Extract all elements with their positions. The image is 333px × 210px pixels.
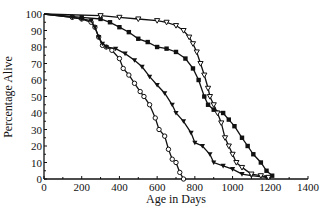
y-tick-label: 100 — [26, 8, 43, 20]
open-circle-marker — [157, 127, 161, 131]
open-circle-marker — [142, 94, 146, 98]
open-circle-marker — [147, 103, 151, 107]
open-triangle-marker — [211, 103, 216, 108]
series-filled-down-triangles — [44, 14, 269, 180]
open-circle-marker — [170, 157, 174, 161]
filled-square-marker — [227, 117, 231, 121]
series-open-circles — [44, 14, 186, 181]
open-triangle-marker — [219, 121, 224, 126]
open-circle-marker — [153, 116, 157, 120]
filled-square-marker — [191, 66, 195, 70]
open-circle-marker — [127, 73, 131, 77]
open-circle-marker — [174, 160, 178, 164]
x-tick-label: 1400 — [297, 181, 320, 193]
filled-square-marker — [240, 136, 244, 140]
filled-square-marker — [183, 56, 187, 60]
open-triangle-marker — [207, 95, 212, 100]
open-triangle-marker — [258, 174, 263, 179]
filled-square-marker — [259, 160, 263, 164]
series-filled-squares — [44, 14, 274, 178]
open-triangle-marker — [205, 86, 210, 91]
filled-square-marker — [264, 169, 268, 173]
filled-square-marker — [245, 144, 249, 148]
series-line — [44, 14, 272, 176]
open-triangle-marker — [198, 62, 203, 67]
open-circle-marker — [178, 170, 182, 174]
open-triangle-marker — [155, 19, 160, 24]
x-tick-label: 200 — [73, 181, 90, 193]
filled-square-marker — [232, 124, 236, 128]
open-triangle-marker — [164, 20, 169, 25]
open-triangle-marker — [136, 17, 141, 22]
filled-square-marker — [155, 45, 159, 49]
filled-square-marker — [136, 37, 140, 41]
open-circle-marker — [132, 81, 136, 85]
open-triangle-marker — [230, 152, 235, 157]
open-triangle-marker — [194, 50, 199, 55]
open-triangle-marker — [226, 144, 231, 149]
y-tick-label: 70 — [31, 58, 43, 70]
open-circle-marker — [117, 56, 121, 60]
filled-square-marker — [117, 25, 121, 29]
y-tick-label: 80 — [31, 41, 43, 53]
y-tick-label: 20 — [31, 140, 43, 152]
filled-square-marker — [206, 103, 210, 107]
filled-triangle-marker — [207, 152, 212, 157]
open-triangle-marker — [215, 111, 220, 116]
series-layer — [44, 14, 274, 182]
open-triangle-marker — [222, 136, 227, 141]
filled-triangle-marker — [170, 103, 175, 108]
filled-square-marker — [202, 94, 206, 98]
survival-chart: 0200400600800100012001400010203040506070… — [0, 0, 333, 210]
y-tick-label: 0 — [37, 173, 43, 185]
filled-square-marker — [174, 50, 178, 54]
series-open-down-triangles — [44, 14, 271, 180]
series-line — [44, 14, 184, 179]
filled-square-marker — [108, 20, 112, 24]
filled-square-marker — [146, 40, 150, 44]
y-tick-label: 10 — [31, 157, 43, 169]
open-circle-marker — [162, 134, 166, 138]
filled-triangle-marker — [188, 131, 193, 136]
open-circle-marker — [181, 177, 185, 181]
filled-square-marker — [196, 78, 200, 82]
x-axis-label: Age in Days — [146, 192, 206, 206]
y-tick-label: 50 — [31, 91, 43, 103]
y-axis-label: Percentage Alive — [1, 56, 15, 138]
filled-square-marker — [221, 111, 225, 115]
open-triangle-marker — [117, 15, 122, 20]
x-tick-label: 0 — [41, 181, 47, 193]
open-circle-marker — [138, 89, 142, 93]
open-triangle-marker — [202, 73, 207, 78]
open-circle-marker — [121, 66, 125, 70]
x-tick-label: 1200 — [259, 181, 282, 193]
axes: 0200400600800100012001400010203040506070… — [26, 8, 320, 193]
x-tick-label: 400 — [111, 181, 128, 193]
filled-square-marker — [164, 46, 168, 50]
y-tick-label: 30 — [31, 124, 43, 136]
open-circle-marker — [166, 147, 170, 151]
open-triangle-marker — [190, 42, 195, 47]
x-tick-label: 1000 — [222, 181, 245, 193]
y-tick-label: 90 — [31, 25, 43, 37]
y-tick-label: 40 — [31, 107, 43, 119]
y-tick-label: 60 — [31, 74, 43, 86]
filled-square-marker — [127, 30, 131, 34]
filled-square-marker — [251, 152, 255, 156]
